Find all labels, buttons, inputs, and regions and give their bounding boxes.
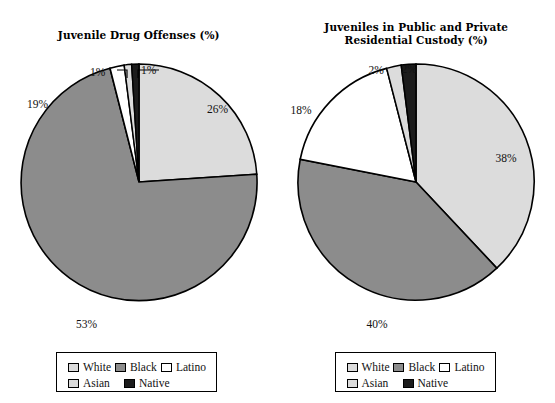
right-pie-wrap — [278, 56, 555, 328]
left-legend-label-native: Native — [139, 377, 170, 389]
left-chart-title: Juvenile Drug Offenses (%) — [0, 29, 278, 42]
legend-swatch-latino-icon — [161, 363, 172, 372]
right-label-latino: 18% — [291, 104, 312, 116]
legend-swatch-asian-icon — [347, 379, 358, 388]
left-label-white: 26% — [207, 103, 228, 115]
left-legend-label-asian: Asian — [83, 377, 110, 389]
left-legend-item-native[interactable]: Native — [124, 377, 179, 389]
left-legend-label-white: White — [83, 361, 111, 373]
left-label-black: 53% — [76, 318, 97, 330]
right-legend-label-white: White — [362, 361, 390, 373]
right-legend-label-asian: Asian — [362, 377, 389, 389]
left-label-latino: 19% — [27, 98, 48, 110]
legend-swatch-black-icon — [393, 363, 404, 372]
right-chart-title-line-1: Juveniles in Public and Private — [278, 21, 555, 34]
left-legend-item-black[interactable]: Black — [115, 361, 161, 373]
right-label-asian: 2% — [369, 64, 384, 76]
legend-swatch-asian-icon — [68, 379, 79, 388]
right-label-black: 40% — [367, 318, 388, 330]
right-pie-chart — [296, 56, 536, 328]
left-legend-item-asian[interactable]: Asian — [68, 377, 124, 389]
right-legend-row-1: White Black Latino — [347, 359, 485, 375]
left-legend-label-latino: Latino — [176, 361, 206, 373]
pie-chart-figure: Juvenile Drug Offenses (%) 1% — [0, 0, 555, 403]
right-legend-label-latino: Latino — [454, 361, 484, 373]
right-legend: White Black Latino Asian Nativ — [335, 352, 496, 392]
left-legend-label-black: Black — [130, 361, 157, 373]
left-label-asian: 1% — [90, 66, 105, 78]
left-legend-row-2: Asian Native — [68, 375, 206, 391]
right-legend-item-white[interactable]: White — [347, 361, 394, 373]
right-legend-label-black: Black — [408, 361, 435, 373]
left-pie-wrap — [0, 56, 278, 328]
left-pie-chart — [19, 56, 259, 328]
right-legend-item-black[interactable]: Black — [393, 361, 439, 373]
legend-swatch-native-icon — [124, 379, 135, 388]
left-legend-item-latino[interactable]: Latino — [161, 361, 206, 373]
legend-swatch-white-icon — [347, 363, 358, 372]
legend-swatch-black-icon — [115, 363, 126, 372]
legend-swatch-latino-icon — [439, 363, 450, 372]
legend-swatch-native-icon — [403, 379, 414, 388]
left-chart-panel: Juvenile Drug Offenses (%) 1% — [0, 0, 278, 403]
right-legend-label-native: Native — [418, 377, 449, 389]
left-legend-item-white[interactable]: White — [68, 361, 115, 373]
right-legend-item-native[interactable]: Native — [403, 377, 458, 389]
left-label-native: 1% — [141, 64, 156, 76]
right-chart-panel: Juveniles in Public and Private Resident… — [278, 0, 555, 403]
legend-swatch-white-icon — [68, 363, 79, 372]
right-chart-title: Juveniles in Public and Private Resident… — [278, 21, 555, 47]
right-legend-item-latino[interactable]: Latino — [439, 361, 484, 373]
right-chart-title-line-2: Residential Custody (%) — [278, 34, 555, 47]
left-legend-row-1: White Black Latino — [68, 359, 206, 375]
right-label-white: 38% — [496, 152, 517, 164]
left-slice-white[interactable] — [139, 64, 257, 182]
right-label-native: 2% — [402, 63, 417, 75]
left-legend: White Black Latino Asian Nativ — [56, 352, 217, 392]
right-legend-item-asian[interactable]: Asian — [347, 377, 403, 389]
right-legend-row-2: Asian Native — [347, 375, 485, 391]
